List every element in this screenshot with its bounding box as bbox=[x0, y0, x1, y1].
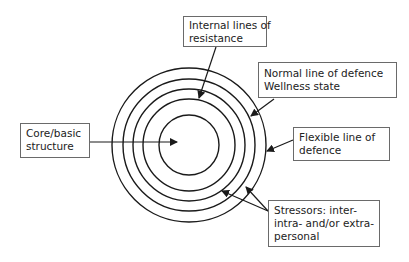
flexible-line-label-line1: Flexible line of bbox=[299, 131, 385, 144]
flexible-line-label-line2: defence bbox=[299, 144, 385, 157]
concentric-circles bbox=[112, 68, 266, 222]
core-label: Core/basic structure bbox=[20, 123, 90, 158]
stressors-label-line1: Stressors: inter- bbox=[274, 204, 375, 217]
normal-line-label-line2: Wellness state bbox=[264, 80, 392, 93]
internal-lines-label: Internal lines of resistance bbox=[183, 16, 267, 47]
resistance-line-outer-circle bbox=[133, 89, 245, 201]
internal-lines-label-line1: Internal lines of bbox=[189, 19, 262, 32]
flexible-line-circle bbox=[112, 68, 266, 222]
core-label-line2: structure bbox=[26, 140, 85, 153]
arrow-flexible-line bbox=[267, 140, 293, 151]
stressors-label-line2: intra- and/or extra- bbox=[274, 217, 375, 230]
core-circle bbox=[159, 115, 219, 175]
flexible-line-label: Flexible line of defence bbox=[293, 127, 390, 161]
arrow-stressor-2 bbox=[246, 187, 268, 211]
stressors-label: Stressors: inter- intra- and/or extra- p… bbox=[268, 200, 380, 247]
arrow-stressor-1 bbox=[222, 191, 268, 211]
resistance-line-inner-circle bbox=[143, 99, 235, 191]
internal-lines-label-line2: resistance bbox=[189, 32, 262, 45]
arrow-normal-line bbox=[251, 99, 274, 116]
normal-line-label: Normal line of defence Wellness state bbox=[258, 62, 397, 98]
normal-line-label-line1: Normal line of defence bbox=[264, 67, 392, 80]
stressors-label-line3: personal bbox=[274, 230, 375, 243]
core-label-line1: Core/basic bbox=[26, 127, 85, 140]
